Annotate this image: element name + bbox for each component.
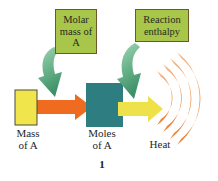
- figure-number: 1: [82, 158, 122, 170]
- node-label-mass: Mass of A: [4, 127, 52, 151]
- node-moles-box: [86, 83, 123, 127]
- node-mass-box: [15, 90, 37, 125]
- node-label-moles: Moles of A: [78, 127, 126, 151]
- annotation-molar-mass: Molar mass of A: [55, 9, 97, 54]
- curved-arrow-molar-mass: [38, 47, 62, 97]
- block-arrow-moles-to-heat: [118, 96, 163, 122]
- chemistry-flow-diagram: Molar mass of A Reaction enthalpy Mass o…: [0, 0, 218, 181]
- node-label-heat: Heat: [140, 138, 180, 150]
- annotation-reaction-enthalpy: Reaction enthalpy: [135, 9, 189, 42]
- block-arrow-mass-to-moles: [30, 94, 92, 120]
- heat-waves-icon: [157, 52, 200, 145]
